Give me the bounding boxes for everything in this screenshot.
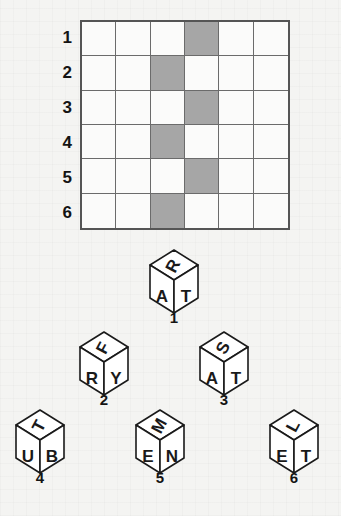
- grid-cell-r2-c4[interactable]: [185, 56, 219, 90]
- grid-cell-r1-c3[interactable]: [151, 22, 185, 56]
- grid-cell-r5-c4[interactable]: [185, 159, 219, 193]
- cube-drawing-6: LET: [258, 408, 330, 478]
- row-label-4: 4: [48, 125, 72, 160]
- grid-cell-r1-c1[interactable]: [82, 22, 116, 56]
- cube-5-right-letter: N: [166, 447, 178, 466]
- cube-2[interactable]: FRY2: [68, 330, 140, 412]
- cube-number-label-5: 5: [124, 470, 196, 485]
- cube-number-label-4: 4: [4, 470, 76, 485]
- row-label-column: 1 2 3 4 5 6: [48, 20, 72, 230]
- grid-cell-r2-c6[interactable]: [254, 56, 288, 90]
- cube-1-left-letter: A: [156, 287, 168, 306]
- grid-cell-r4-c5[interactable]: [219, 125, 253, 159]
- row-label-3: 3: [48, 90, 72, 125]
- cube-3[interactable]: SAT3: [188, 330, 260, 412]
- grid-cell-r6-c5[interactable]: [219, 194, 253, 228]
- grid-cell-r4-c1[interactable]: [82, 125, 116, 159]
- cube-5[interactable]: MEN5: [124, 408, 196, 490]
- grid-cell-r2-c1[interactable]: [82, 56, 116, 90]
- grid-cell-r5-c6[interactable]: [254, 159, 288, 193]
- cube-number-label-1: 1: [138, 310, 210, 325]
- row-label-2: 2: [48, 55, 72, 90]
- cube-1-right-letter: T: [181, 287, 192, 306]
- row-label-1: 1: [48, 20, 72, 55]
- grid-cell-r5-c1[interactable]: [82, 159, 116, 193]
- cube-number-label-6: 6: [258, 470, 330, 485]
- puzzle-grid[interactable]: [80, 20, 290, 230]
- grid-cell-r3-c1[interactable]: [82, 91, 116, 125]
- grid-cell-r6-c4[interactable]: [185, 194, 219, 228]
- grid-cell-r6-c1[interactable]: [82, 194, 116, 228]
- cube-5-left-letter: E: [142, 447, 153, 466]
- grid-cell-r2-c3[interactable]: [151, 56, 185, 90]
- grid-cell-r1-c6[interactable]: [254, 22, 288, 56]
- grid-cell-r3-c5[interactable]: [219, 91, 253, 125]
- grid-cell-r5-c3[interactable]: [151, 159, 185, 193]
- grid-cell-r6-c3[interactable]: [151, 194, 185, 228]
- cube-4-left-letter: U: [22, 447, 34, 466]
- row-label-6: 6: [48, 195, 72, 230]
- cube-drawing-3: SAT: [188, 330, 260, 400]
- cube-4[interactable]: TUB4: [4, 408, 76, 490]
- cube-2-right-letter: Y: [110, 369, 122, 388]
- grid-cell-r2-c5[interactable]: [219, 56, 253, 90]
- cube-drawing-1: RAT: [138, 248, 210, 318]
- grid-cell-r1-c5[interactable]: [219, 22, 253, 56]
- grid-cell-r3-c4[interactable]: [185, 91, 219, 125]
- cube-drawing-5: MEN: [124, 408, 196, 478]
- cube-6-right-letter: T: [301, 447, 312, 466]
- grid-cell-r4-c6[interactable]: [254, 125, 288, 159]
- grid-cell-r3-c6[interactable]: [254, 91, 288, 125]
- grid-cell-r1-c4[interactable]: [185, 22, 219, 56]
- cube-4-right-letter: B: [46, 447, 58, 466]
- grid-cell-r6-c6[interactable]: [254, 194, 288, 228]
- cube-3-right-letter: T: [231, 369, 242, 388]
- grid-section: 1 2 3 4 5 6: [0, 0, 341, 245]
- grid-cell-r5-c5[interactable]: [219, 159, 253, 193]
- cube-1[interactable]: RAT1: [138, 248, 210, 330]
- cube-drawing-4: TUB: [4, 408, 76, 478]
- cube-6[interactable]: LET6: [258, 408, 330, 490]
- cube-number-label-2: 2: [68, 392, 140, 407]
- cube-number-label-3: 3: [188, 392, 260, 407]
- grid-cell-r6-c2[interactable]: [116, 194, 150, 228]
- row-label-5: 5: [48, 160, 72, 195]
- grid-cell-r4-c4[interactable]: [185, 125, 219, 159]
- cube-3-left-letter: A: [206, 369, 218, 388]
- grid-cell-r4-c3[interactable]: [151, 125, 185, 159]
- grid-cell-r1-c2[interactable]: [116, 22, 150, 56]
- grid-cell-r2-c2[interactable]: [116, 56, 150, 90]
- cube-drawing-2: FRY: [68, 330, 140, 400]
- grid-cell-r3-c3[interactable]: [151, 91, 185, 125]
- grid-cell-r3-c2[interactable]: [116, 91, 150, 125]
- cube-6-left-letter: E: [276, 447, 287, 466]
- grid-cell-r4-c2[interactable]: [116, 125, 150, 159]
- grid-cell-r5-c2[interactable]: [116, 159, 150, 193]
- cube-2-left-letter: R: [86, 369, 98, 388]
